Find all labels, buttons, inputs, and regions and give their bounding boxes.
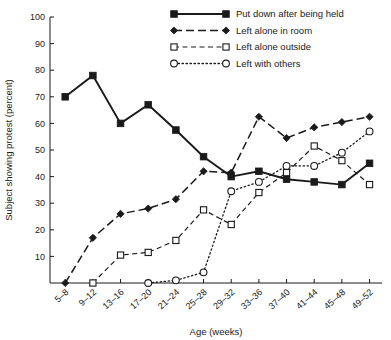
x-tick-label: 17–20 [128, 287, 153, 311]
marker-open-circle [311, 163, 318, 170]
marker-open-square [90, 280, 96, 286]
y-tick-label: 50 [35, 145, 45, 155]
series-line [148, 131, 369, 283]
marker-open-square [171, 44, 177, 50]
legend-item[interactable]: Left alone in room [170, 25, 312, 36]
legend-item[interactable]: Put down after being held [171, 8, 344, 19]
series-line [93, 146, 370, 283]
y-tick-label: 30 [35, 198, 45, 208]
marker-filled-diamond [170, 27, 177, 34]
x-tick-label: 29–32 [211, 287, 236, 311]
marker-open-circle [255, 179, 262, 186]
y-tick-label: 80 [35, 65, 45, 75]
marker-open-square [256, 189, 262, 195]
marker-open-square [173, 237, 179, 243]
marker-filled-square [283, 176, 290, 183]
chart-container: 102030405060708090100Subject showing pro… [0, 0, 391, 340]
legend-label: Left with others [236, 58, 301, 69]
marker-open-square [366, 181, 372, 187]
y-axis-title: Subject showing protest (percent) [3, 79, 14, 221]
axis-spine [50, 17, 382, 283]
y-tick-label: 100 [30, 12, 45, 22]
series-line [65, 76, 369, 185]
x-tick-label: 37–40 [267, 287, 292, 311]
marker-open-circle [172, 277, 179, 284]
x-tick-label: 33–36 [239, 287, 264, 311]
line-chart: 102030405060708090100Subject showing pro… [0, 0, 391, 340]
marker-filled-diamond [62, 279, 69, 286]
marker-open-circle [366, 128, 373, 135]
marker-filled-square [200, 153, 207, 160]
marker-open-circle [145, 280, 152, 287]
marker-filled-square [171, 11, 178, 18]
marker-filled-square [145, 101, 152, 108]
legend-item[interactable]: Left with others [171, 58, 301, 69]
marker-filled-diamond [89, 234, 96, 241]
marker-open-square [223, 44, 229, 50]
series-line [65, 117, 369, 283]
x-tick-label: 9–12 [77, 287, 99, 308]
series-4 [145, 128, 373, 286]
marker-filled-square [62, 94, 69, 101]
x-tick-label: 21–24 [156, 287, 181, 311]
marker-open-square [228, 221, 234, 227]
x-tick-label: 49–52 [350, 287, 375, 311]
x-tick-label: 25–28 [184, 287, 209, 311]
series-2 [62, 113, 374, 286]
legend-item[interactable]: Left alone outside [171, 41, 311, 52]
marker-filled-square [311, 179, 318, 186]
x-tick-label: 45–48 [322, 287, 347, 311]
y-tick-label: 10 [35, 252, 45, 262]
marker-filled-diamond [311, 124, 318, 131]
y-tick-label: 90 [35, 39, 45, 49]
marker-filled-square [173, 127, 180, 134]
marker-filled-diamond [366, 113, 373, 120]
marker-filled-square [339, 181, 346, 188]
y-tick-label: 20 [35, 225, 45, 235]
marker-filled-diamond [145, 205, 152, 212]
marker-open-square [145, 249, 151, 255]
x-tick-label: 13–16 [101, 287, 126, 311]
marker-open-circle [338, 149, 345, 156]
marker-open-square [283, 170, 289, 176]
legend-label: Left alone in room [236, 25, 312, 36]
y-tick-label: 70 [35, 92, 45, 102]
marker-open-circle [228, 188, 235, 195]
marker-open-square [311, 143, 317, 149]
marker-open-circle [171, 60, 178, 67]
marker-filled-diamond [338, 118, 345, 125]
series-3 [90, 143, 373, 286]
marker-filled-square [223, 11, 230, 18]
legend-label: Left alone outside [236, 41, 311, 52]
x-tick-label: 41–44 [294, 287, 319, 311]
marker-filled-square [117, 120, 124, 127]
series-1 [62, 72, 373, 188]
marker-open-square [200, 207, 206, 213]
marker-open-square [117, 252, 123, 258]
marker-open-circle [200, 269, 207, 276]
x-axis-title: Age (weeks) [190, 326, 243, 337]
x-tick-label: 5–8 [53, 287, 71, 304]
legend: Put down after being heldLeft alone in r… [170, 8, 343, 69]
marker-filled-square [366, 160, 373, 167]
legend-label: Put down after being held [236, 8, 344, 19]
marker-filled-square [256, 168, 263, 175]
y-tick-label: 40 [35, 172, 45, 182]
marker-open-circle [223, 60, 230, 67]
y-tick-label: 60 [35, 119, 45, 129]
marker-filled-square [90, 72, 97, 79]
marker-filled-diamond [222, 27, 229, 34]
x-axis: 5–89–1213–1617–2021–2425–2829–3233–3637–… [53, 279, 375, 311]
marker-open-circle [283, 163, 290, 170]
marker-open-square [339, 158, 345, 164]
